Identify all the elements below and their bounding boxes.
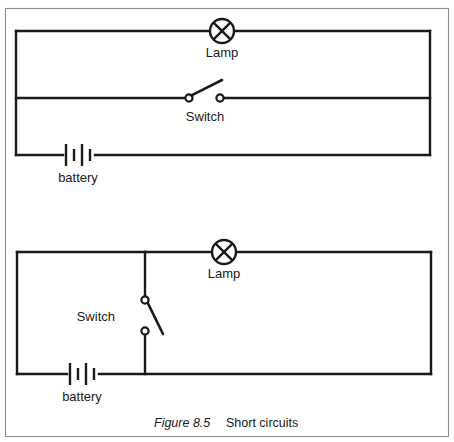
battery-label-top: battery bbox=[58, 170, 98, 185]
lamp-label-bottom: Lamp bbox=[208, 266, 241, 281]
caption-title: Short circuits bbox=[226, 416, 298, 430]
battery-label-bottom: battery bbox=[62, 389, 102, 404]
switch-open-icon bbox=[141, 296, 163, 334]
top-circuit: Lamp Switch battery bbox=[16, 19, 430, 185]
battery-icon bbox=[70, 363, 94, 385]
lamp-icon bbox=[212, 240, 236, 264]
lamp-label-top: Lamp bbox=[206, 45, 239, 60]
figure-caption: Figure 8.5 Short circuits bbox=[154, 416, 298, 430]
lamp-icon bbox=[210, 19, 234, 43]
figure-border bbox=[6, 9, 449, 437]
switch-label-bottom: Switch bbox=[77, 309, 115, 324]
caption-figure-number: Figure 8.5 bbox=[154, 416, 210, 430]
bottom-circuit: Lamp Switch battery bbox=[17, 240, 431, 404]
battery-icon bbox=[66, 144, 90, 166]
switch-label-top: Switch bbox=[186, 109, 224, 124]
figure-container: Lamp Switch battery bbox=[0, 0, 454, 442]
circuit-diagram-canvas: Lamp Switch battery bbox=[0, 0, 454, 442]
switch-open-icon bbox=[185, 80, 223, 102]
